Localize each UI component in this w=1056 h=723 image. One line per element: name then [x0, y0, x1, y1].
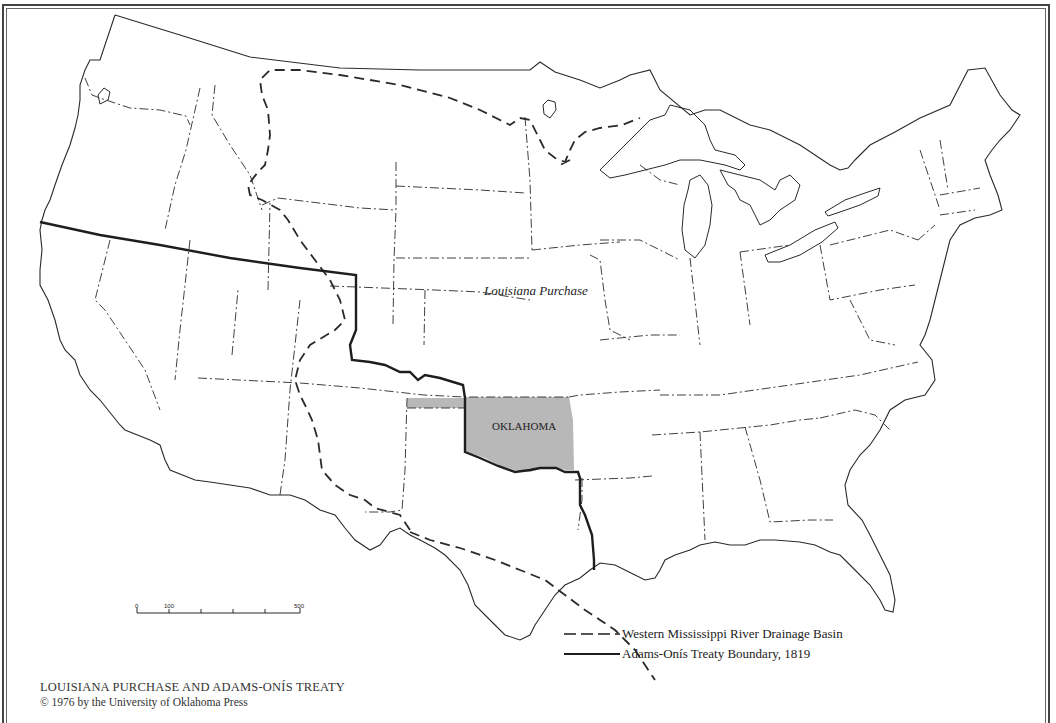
- scale-tick-100: 100: [164, 603, 175, 609]
- lake-superior: [600, 105, 745, 178]
- map-title: LOUISIANA PURCHASE AND ADAMS-ONÍS TREATY: [40, 680, 345, 695]
- legend-item-treaty-boundary: Adams-Onís Treaty Boundary, 1819: [564, 644, 843, 664]
- us-outline: [40, 15, 1020, 640]
- lake-erie: [765, 222, 838, 262]
- lake-huron: [720, 170, 800, 225]
- solid-line-icon: [564, 649, 620, 659]
- adams-onis-treaty-boundary: [40, 222, 594, 570]
- map-legend: Western Mississippi River Drainage Basin…: [564, 624, 843, 664]
- legend-label-treaty-boundary: Adams-Onís Treaty Boundary, 1819: [622, 646, 810, 662]
- drainage-basin-boundary: [248, 70, 655, 680]
- lake-ontario: [825, 188, 880, 216]
- copyright-notice: © 1976 by the University of Oklahoma Pre…: [40, 695, 345, 710]
- lake-michigan: [682, 175, 712, 258]
- legend-item-drainage-basin: Western Mississippi River Drainage Basin: [564, 624, 843, 644]
- lake-of-the-woods: [543, 100, 556, 118]
- map-caption: LOUISIANA PURCHASE AND ADAMS-ONÍS TREATY…: [40, 680, 345, 710]
- scale-bar: 0 100 500: [135, 603, 305, 613]
- legend-label-drainage-basin: Western Mississippi River Drainage Basin: [622, 626, 843, 642]
- us-map: Louisiana Purchase OKLAHOMA 0 100 500: [0, 0, 1056, 723]
- scale-tick-0: 0: [135, 603, 139, 609]
- scale-tick-500: 500: [294, 603, 305, 609]
- dashed-line-icon: [564, 629, 620, 639]
- oklahoma-label: OKLAHOMA: [492, 420, 556, 432]
- puget-sound: [98, 88, 110, 104]
- louisiana-purchase-label: Louisiana Purchase: [483, 283, 588, 298]
